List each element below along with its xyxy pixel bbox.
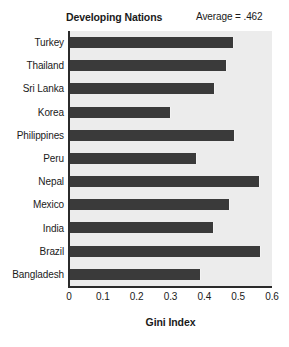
bar [69, 130, 235, 141]
bar-row [69, 170, 272, 193]
y-axis-tick-labels: TurkeyThailandSri LankaKoreaPhilippinesP… [0, 31, 64, 286]
y-axis-tick-label: Philippines [0, 130, 64, 141]
y-axis-tick-label: Bangladesh [0, 269, 64, 280]
bar [69, 107, 171, 118]
bar [69, 222, 214, 233]
x-axis-title: Gini Index [69, 316, 272, 328]
gini-index-bar-chart: Developing Nations Average = .462 Turkey… [0, 0, 289, 347]
bar [69, 153, 197, 164]
bar-row [69, 193, 272, 216]
bar [69, 269, 201, 280]
y-axis-tick-label: India [0, 223, 64, 234]
x-axis-tick-label: 0.1 [96, 291, 110, 302]
bar-row [69, 263, 272, 286]
y-axis-tick-label: Brazil [0, 246, 64, 257]
x-axis-tick-label: 0 [66, 291, 71, 302]
y-axis-tick-label: Turkey [0, 37, 64, 48]
plot-area [69, 31, 272, 286]
x-axis-tick-label: 0.2 [130, 291, 144, 302]
bar-row [69, 101, 272, 124]
y-axis-tick-label: Peru [0, 153, 64, 164]
bar-row [69, 77, 272, 100]
bar-row [69, 147, 272, 170]
bar [69, 37, 234, 48]
chart-average-annotation: Average = .462 [196, 11, 263, 22]
bar-row [69, 54, 272, 77]
y-axis-line [68, 31, 70, 287]
y-axis-tick-label: Thailand [0, 60, 64, 71]
bar-row [69, 31, 272, 54]
x-axis-tick-label: 0.4 [198, 291, 212, 302]
x-axis-line [68, 286, 272, 288]
bar-row [69, 240, 272, 263]
chart-header: Developing Nations Average = .462 [0, 11, 289, 27]
y-axis-tick-label: Korea [0, 107, 64, 118]
bar-row [69, 124, 272, 147]
x-axis-tick-label: 0.3 [164, 291, 178, 302]
bar [69, 176, 260, 187]
x-axis-tick-labels: 00.10.20.30.40.50.6 [69, 291, 272, 305]
x-axis-tick-label: 0.5 [231, 291, 245, 302]
bar-series [69, 31, 272, 286]
y-axis-tick-label: Nepal [0, 176, 64, 187]
bar-row [69, 216, 272, 239]
x-axis-tick-label: 0.6 [265, 291, 279, 302]
bar [69, 246, 261, 257]
bar [69, 199, 230, 210]
y-axis-tick-label: Sri Lanka [0, 83, 64, 94]
bar [69, 83, 215, 94]
y-axis-tick-label: Mexico [0, 199, 64, 210]
bar [69, 60, 227, 71]
chart-title: Developing Nations [66, 11, 162, 23]
